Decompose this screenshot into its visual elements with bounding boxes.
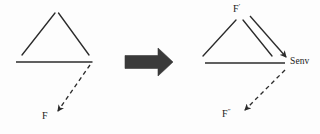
left-triangle-left-edge <box>22 13 55 55</box>
label-force-f-double-prime: F″ <box>222 109 231 119</box>
label-force-f-prime: F′ <box>233 4 240 14</box>
left-triangle-right-edge <box>59 13 90 55</box>
left-panel-group <box>16 13 93 111</box>
label-force-f: F <box>42 111 48 121</box>
block-arrow-shape <box>125 48 173 76</box>
prime-superscript: ′ <box>239 2 241 10</box>
right-dashed-force-arrow <box>245 70 285 110</box>
diagram-canvas <box>0 0 320 134</box>
label-senv: Senv <box>290 57 309 67</box>
transform-block-arrow <box>125 48 173 76</box>
double-prime-superscript: ″ <box>228 107 231 115</box>
figure-container: F F′ Senv F″ <box>0 0 320 134</box>
right-panel-group <box>203 16 286 110</box>
right-triangle-left-edge <box>203 20 236 56</box>
left-dashed-force-arrow <box>58 65 90 111</box>
